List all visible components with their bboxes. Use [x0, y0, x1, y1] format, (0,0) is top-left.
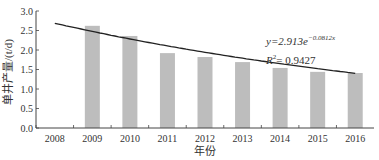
x-tick-label: 2009	[82, 133, 102, 144]
x-tick-label: 2011	[158, 133, 178, 144]
y-tick-label: 1.5	[21, 64, 34, 75]
x-axis-label: 年份	[194, 144, 216, 157]
bar	[310, 72, 325, 128]
x-tick-label: 2014	[270, 133, 290, 144]
bar	[122, 36, 137, 128]
y-tick-label: 3.0	[21, 6, 34, 17]
y-tick-label: 2.0	[21, 45, 34, 56]
y-tick-label: 1.0	[21, 84, 34, 95]
bar	[273, 68, 288, 128]
bar	[198, 57, 213, 128]
y-tick-label: 0.0	[21, 123, 34, 134]
chart-svg: 2008200920102011201220132014201520160.00…	[0, 0, 379, 160]
y-tick-label: 0.5	[21, 103, 34, 114]
bar	[160, 53, 175, 128]
x-tick-label: 2015	[308, 133, 328, 144]
x-tick-label: 2012	[195, 133, 215, 144]
y-tick-label: 2.5	[21, 25, 34, 36]
x-tick-label: 2013	[233, 133, 253, 144]
bar	[348, 73, 363, 128]
bar	[85, 26, 100, 128]
trend-equation: y=2.913e−0.0812x	[265, 34, 336, 47]
x-tick-label: 2016	[345, 133, 365, 144]
chart: 2008200920102011201220132014201520160.00…	[0, 0, 379, 160]
y-axis-label: 单井产量/(t/d)	[1, 39, 15, 105]
x-tick-label: 2010	[120, 133, 140, 144]
r2-label: R2= 0.9427	[265, 53, 316, 66]
x-tick-label: 2008	[45, 133, 65, 144]
bar	[235, 62, 250, 128]
